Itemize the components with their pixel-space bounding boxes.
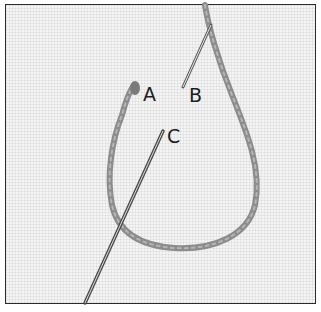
needle-b xyxy=(183,25,211,87)
label-c: C xyxy=(167,125,180,147)
label-b: B xyxy=(189,84,202,106)
embroidery-illustration xyxy=(0,0,321,312)
needle-c xyxy=(85,131,163,303)
thread xyxy=(110,5,257,248)
label-a: A xyxy=(143,83,156,105)
